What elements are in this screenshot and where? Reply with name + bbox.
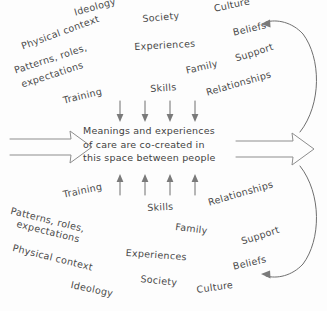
label-support-top: Support [234,42,275,65]
right-block-arrow [236,133,314,165]
down-arrow-4 [192,101,199,122]
left-block-arrow [10,131,92,163]
label-culture-bottom: Culture [196,280,234,296]
label-family-bottom: Family [175,222,208,237]
label-experiences-top: Experiences [134,39,196,53]
label-physical-context-top: Physical context [20,14,101,52]
center-statement-line-3: this space between people [83,151,231,165]
center-statement: Meanings and experiences of care are co-… [83,124,231,165]
label-training-bottom: Training [62,182,103,201]
label-society-bottom: Society [140,274,178,289]
label-relationships-bottom: Relationships [207,179,275,208]
label-training-top: Training [62,86,103,106]
up-arrow-1 [117,174,124,195]
label-physical-context-bottom: Physical context [11,243,93,274]
label-experiences-bottom: Experiences [125,248,187,263]
down-arrow-3 [167,101,174,122]
label-support-bottom: Support [240,225,281,248]
label-skills-bottom: Skills [147,202,174,214]
label-relationships-top: Relationships [205,69,273,98]
label-society-top: Society [142,11,180,25]
label-beliefs-top: Beliefs [232,20,267,38]
label-ideology-bottom: Ideology [70,280,114,300]
handdrawn-diagram: Ideology Physical context Patterns, role… [0,0,327,311]
center-statement-line-1: Meanings and experiences [83,124,231,138]
down-arrow-1 [117,101,124,122]
label-culture-top: Culture [213,0,251,15]
label-beliefs-bottom: Beliefs [232,254,267,272]
up-arrow-3 [167,174,174,195]
label-family-top: Family [185,59,219,77]
down-arrow-2 [142,101,149,122]
label-skills-top: Skills [150,82,177,95]
center-statement-line-2: of care are co-created in [83,138,231,152]
up-arrow-4 [192,174,199,195]
up-arrow-2 [142,174,149,195]
